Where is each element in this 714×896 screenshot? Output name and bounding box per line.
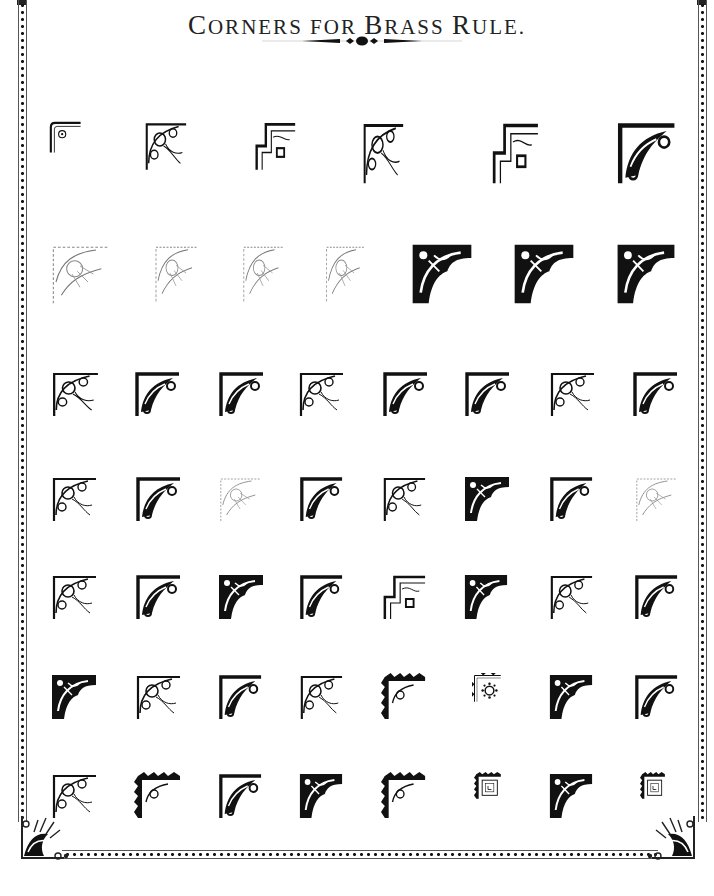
ornament-corner-faint-icon — [217, 475, 263, 523]
ornament-corner-solid-icon — [50, 673, 98, 721]
ornament-corner-bold-icon — [298, 475, 344, 523]
ornament-corner-bold-icon — [381, 370, 429, 418]
corner-specimen — [361, 120, 405, 186]
corner-specimen — [134, 573, 182, 621]
corner-specimen — [548, 772, 594, 820]
ornament-corner-solid-icon — [463, 475, 511, 523]
ornament-corner-step-icon — [490, 120, 540, 186]
ornament-corner-bold-icon — [217, 673, 263, 721]
corner-specimen — [463, 475, 511, 523]
specimen-row-6 — [0, 673, 714, 753]
specimen-row-5 — [0, 573, 714, 653]
ornament-corner-faint-icon — [323, 242, 367, 304]
corner-specimen — [50, 772, 98, 820]
corner-specimen — [633, 573, 679, 621]
ornament-corner-bold-icon — [134, 475, 182, 523]
ornament-corner-box-icon — [474, 772, 502, 800]
ornament-corner-solid-icon — [512, 242, 576, 306]
corner-specimen — [381, 673, 427, 721]
ornament-corner-bold-icon — [217, 772, 263, 820]
ornament-corner-bold-icon — [463, 370, 511, 418]
ornament-corner-scroll-icon — [298, 673, 344, 721]
ornament-corner-scroll-icon — [50, 573, 98, 621]
specimen-row-3 — [0, 370, 714, 450]
ornament-corner-step-icon — [253, 120, 297, 172]
ornament-corner-scroll-icon — [297, 370, 345, 418]
corner-specimen — [381, 370, 429, 418]
corner-specimen — [217, 673, 263, 721]
ornament-corner-faint-icon — [633, 475, 679, 523]
ornament-corner-scroll-icon — [143, 120, 188, 172]
corner-specimen — [48, 120, 82, 154]
corner-specimen — [298, 673, 344, 721]
corner-specimen — [633, 673, 679, 721]
ornament-corner-bold-icon — [631, 370, 679, 418]
corner-specimen — [134, 772, 182, 820]
corner-specimen — [474, 772, 502, 800]
corner-specimen — [381, 573, 427, 621]
ornament-corner-bold-icon — [633, 673, 679, 721]
ornament-corner-solid-icon — [410, 242, 474, 306]
ornament-corner-scroll-icon — [381, 475, 427, 523]
corner-specimen — [298, 475, 344, 523]
corner-specimen — [463, 573, 509, 621]
corner-specimen — [134, 673, 182, 721]
corner-specimen — [50, 370, 100, 418]
ornament-corner-bold-icon — [615, 120, 677, 186]
ornament-corner-faint-icon — [152, 242, 200, 304]
ornament-corner-bold-icon — [548, 475, 594, 523]
corner-specimen — [217, 475, 263, 523]
ornament-corner-bold-icon — [217, 370, 265, 418]
ornament-corner-notch-icon — [381, 772, 427, 820]
ornament-corner-scroll-icon — [50, 772, 98, 820]
corner-specimen — [50, 673, 98, 721]
ornamental-divider-icon — [262, 34, 462, 48]
ornament-corner-notch-icon — [134, 772, 182, 820]
corner-specimen — [298, 772, 344, 820]
corner-specimen — [548, 673, 594, 721]
ornament-corner-solid-icon — [217, 573, 265, 621]
specimen-row-4 — [0, 475, 714, 555]
ornament-corner-box-icon — [640, 772, 666, 800]
ornament-corner-sun-icon — [472, 673, 502, 703]
catalog-page: CORNERS FOR BRASS RULE. — [0, 0, 714, 896]
corner-specimen — [472, 673, 502, 703]
ornament-corner-scroll-icon — [50, 370, 100, 418]
corner-specimen — [381, 772, 427, 820]
ornament-corner-solid-icon — [463, 573, 509, 621]
corner-specimen — [143, 120, 188, 172]
corner-specimen — [640, 772, 666, 800]
ornament-corner-scroll-icon — [361, 120, 405, 186]
ornament-corner-solid-icon — [615, 242, 677, 306]
ornament-corner-faint-icon — [48, 242, 112, 306]
ornament-corner-solid-icon — [548, 772, 594, 820]
corner-specimen — [240, 242, 286, 304]
corner-specimen — [48, 242, 112, 306]
ornament-corner-scroll-icon — [548, 370, 596, 418]
corner-specimen — [410, 242, 474, 306]
corner-specimen — [548, 370, 596, 418]
corner-specimen — [217, 772, 263, 820]
corner-specimen — [463, 370, 511, 418]
corner-specimen — [615, 120, 677, 186]
corner-specimen — [133, 370, 181, 418]
ornament-corner-solid-icon — [298, 772, 344, 820]
corner-specimen — [323, 242, 367, 304]
ornament-corner-faint-icon — [240, 242, 286, 304]
corner-specimen — [152, 242, 200, 304]
ornament-corner-scroll-icon — [134, 673, 182, 721]
corner-specimen — [134, 475, 182, 523]
corner-specimen — [631, 370, 679, 418]
corner-specimen — [297, 370, 345, 418]
corner-specimen — [615, 242, 677, 306]
corner-specimen — [490, 120, 540, 186]
ornament-corner-scroll-icon — [548, 573, 594, 621]
corner-specimen — [50, 573, 98, 621]
corner-specimen — [50, 475, 98, 523]
corner-specimen — [217, 370, 265, 418]
corner-specimen — [512, 242, 576, 306]
ornament-corner-line-icon — [48, 120, 82, 154]
specimen-row-7 — [0, 772, 714, 852]
corner-specimen — [253, 120, 297, 172]
ornament-corner-bold-icon — [633, 573, 679, 621]
